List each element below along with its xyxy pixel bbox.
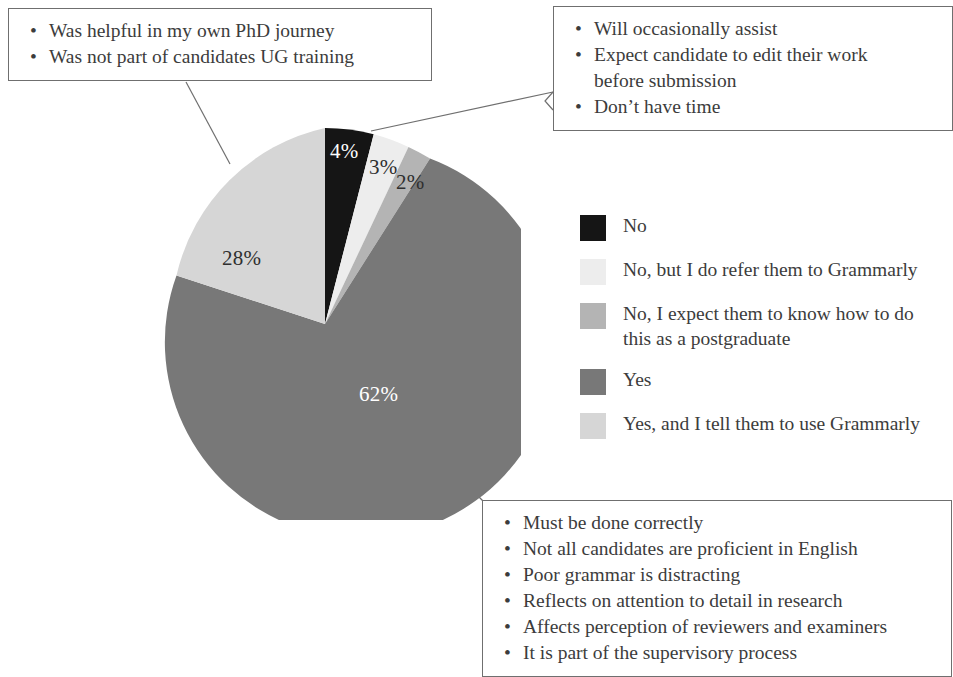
- callout-top-right-item-3: • Don’t have time: [568, 94, 938, 120]
- bullet-icon: •: [504, 640, 511, 666]
- callout-bottom-item-4-text: Reflects on attention to detail in resea…: [523, 590, 842, 611]
- callout-bottom-item-6-text: It is part of the supervisory process: [523, 642, 797, 663]
- bullet-icon: •: [504, 614, 511, 640]
- legend-swatch-no-expect-postgraduate: [580, 303, 606, 329]
- bullet-icon: •: [504, 588, 511, 614]
- legend-label-line-2: this as a postgraduate: [623, 326, 914, 351]
- slice-label-no-expect-postgraduate: 2%: [396, 170, 424, 195]
- callout-bottom-item-2-text: Not all candidates are proficient in Eng…: [523, 538, 858, 559]
- bullet-icon: •: [504, 510, 511, 536]
- callout-bottom-item-4: • Reflects on attention to detail in res…: [497, 588, 937, 614]
- legend-label-no: No: [623, 213, 647, 238]
- callout-bottom-item-5: • Affects perception of reviewers and ex…: [497, 614, 937, 640]
- bullet-icon: •: [30, 18, 37, 44]
- callout-bottom-item-2: • Not all candidates are proficient in E…: [497, 536, 937, 562]
- callout-box-top-left: • Was helpful in my own PhD journey • Wa…: [8, 8, 432, 81]
- slice-label-yes-and-tell-grammarly: 28%: [222, 246, 261, 271]
- bullet-icon: •: [30, 44, 37, 70]
- legend-swatch-yes: [580, 369, 606, 395]
- chart-legend: No No, but I do refer them to Grammarly …: [580, 213, 942, 455]
- callout-top-right-item-2-text: Expect candidate to edit their work: [594, 42, 938, 68]
- callout-bottom-item-3-text: Poor grammar is distracting: [523, 564, 740, 585]
- callout-top-left-item-1: • Was helpful in my own PhD journey: [23, 18, 417, 44]
- legend-label-yes-and-tell-grammarly: Yes, and I tell them to use Grammarly: [623, 411, 920, 436]
- pie-chart: [129, 128, 521, 520]
- legend-swatch-yes-and-tell-grammarly: [580, 413, 606, 439]
- callout-bottom-list: • Must be done correctly • Not all candi…: [497, 510, 937, 666]
- slice-label-yes: 62%: [359, 382, 398, 407]
- callout-top-right-item-2-text-cont: before submission: [594, 68, 938, 94]
- callout-bottom-item-1: • Must be done correctly: [497, 510, 937, 536]
- connector-tab-top-right: [545, 92, 553, 110]
- bullet-icon: •: [575, 16, 582, 42]
- legend-swatch-no: [580, 215, 606, 241]
- legend-label-line-1: No, I expect them to know how to do: [623, 301, 914, 326]
- slice-label-no-but-refer-grammarly: 3%: [369, 155, 397, 180]
- legend-label-no-expect-postgraduate: No, I expect them to know how to do this…: [623, 301, 914, 351]
- callout-top-right-item-3-text: Don’t have time: [594, 96, 720, 117]
- callout-top-left-item-2: • Was not part of candidates UG training: [23, 44, 417, 70]
- legend-item-yes-and-tell-grammarly[interactable]: Yes, and I tell them to use Grammarly: [580, 411, 942, 439]
- callout-top-left-list: • Was helpful in my own PhD journey • Wa…: [23, 18, 417, 70]
- callout-top-right-list: • Will occasionally assist • Expect cand…: [568, 16, 938, 120]
- connector-line-top-right: [371, 92, 553, 131]
- callout-bottom-item-5-text: Affects perception of reviewers and exam…: [523, 616, 887, 637]
- callout-bottom-item-6: • It is part of the supervisory process: [497, 640, 937, 666]
- legend-item-no[interactable]: No: [580, 213, 942, 241]
- callout-top-right-item-1-text: Will occasionally assist: [594, 18, 777, 39]
- callout-top-left-item-2-text: Was not part of candidates UG training: [49, 46, 354, 67]
- callout-top-left-item-1-text: Was helpful in my own PhD journey: [49, 20, 334, 41]
- bullet-icon: •: [575, 42, 582, 68]
- bullet-icon: •: [504, 536, 511, 562]
- legend-label-yes: Yes: [623, 367, 651, 392]
- callout-bottom-item-3: • Poor grammar is distracting: [497, 562, 937, 588]
- legend-item-yes[interactable]: Yes: [580, 367, 942, 395]
- callout-top-right-item-1: • Will occasionally assist: [568, 16, 938, 42]
- callout-box-top-right: • Will occasionally assist • Expect cand…: [553, 6, 953, 131]
- legend-label-no-but-refer-grammarly: No, but I do refer them to Grammarly: [623, 257, 918, 282]
- callout-box-bottom: • Must be done correctly • Not all candi…: [482, 500, 952, 677]
- bullet-icon: •: [504, 562, 511, 588]
- callout-bottom-item-1-text: Must be done correctly: [523, 512, 703, 533]
- legend-swatch-no-but-refer-grammarly: [580, 259, 606, 285]
- bullet-icon: •: [575, 94, 582, 120]
- pie-slices: [165, 128, 521, 520]
- legend-item-no-but-refer-grammarly[interactable]: No, but I do refer them to Grammarly: [580, 257, 942, 285]
- slice-label-no: 4%: [330, 139, 358, 164]
- callout-top-right-item-2: • Expect candidate to edit their work be…: [568, 42, 938, 94]
- legend-item-no-expect-postgraduate[interactable]: No, I expect them to know how to do this…: [580, 301, 942, 351]
